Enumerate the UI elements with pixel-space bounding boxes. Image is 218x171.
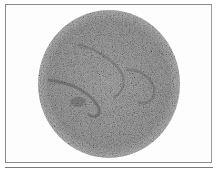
dark-spot — [70, 97, 86, 107]
stippled-disc — [38, 10, 180, 158]
disc-texture — [38, 10, 180, 158]
disc-graphic — [38, 10, 180, 158]
bottom-rule — [5, 167, 213, 168]
